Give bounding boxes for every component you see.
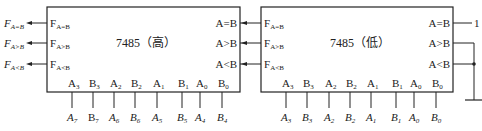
svg-text:B3: B3: [303, 77, 314, 91]
pin: B1B5: [177, 77, 189, 125]
svg-text:B2: B2: [345, 111, 356, 125]
low-data-pins: A3A3 B3B3 A2A2 B2B2 A1A1 B1B1 A0A0 B0B0: [280, 77, 443, 125]
svg-text:B4: B4: [217, 111, 228, 125]
high-cascade-gt: A>B: [216, 37, 237, 49]
svg-text:B1: B1: [392, 77, 403, 91]
high-cascade-eq: A=B: [216, 17, 237, 29]
svg-text:A5: A5: [151, 111, 163, 125]
svg-text:B1: B1: [178, 77, 189, 91]
pin: B0B0: [431, 77, 443, 125]
pin: B3B3: [302, 77, 314, 125]
svg-text:B5: B5: [177, 111, 188, 125]
svg-text:B3: B3: [89, 77, 100, 91]
svg-text:B0: B0: [218, 77, 229, 91]
svg-text:A2: A2: [323, 111, 335, 125]
svg-text:A1: A1: [153, 77, 165, 91]
junction-dot-icon: [472, 62, 476, 66]
low-pin-f-lt: FA<B: [264, 58, 284, 72]
ground-wiring: [453, 43, 482, 100]
svg-text:B6: B6: [130, 111, 141, 125]
svg-text:B2: B2: [346, 77, 357, 91]
svg-text:A1: A1: [367, 77, 379, 91]
high-cascade-lt: A<B: [216, 58, 237, 70]
svg-text:B0: B0: [432, 77, 443, 91]
pin: A0A0: [408, 77, 422, 125]
svg-text:A3: A3: [280, 111, 292, 125]
pin: A3A7: [66, 77, 80, 125]
high-pin-f-eq: FA=B: [50, 17, 70, 31]
low-cascade-lt: A<B: [429, 58, 450, 70]
pin: B0B4: [217, 77, 229, 125]
pin: B1B1: [391, 77, 403, 125]
high-output-a-eq-b: FA=B: [3, 17, 47, 31]
link-lt: [240, 62, 261, 66]
svg-text:B2: B2: [131, 77, 142, 91]
high-output-a-lt-b: FA<B: [3, 58, 47, 72]
low-pin-f-eq: FA=B: [264, 17, 284, 31]
svg-text:A3: A3: [68, 77, 80, 91]
arrow-left-icon: [26, 62, 32, 66]
high-pin-f-gt: FA>B: [50, 37, 70, 51]
link-gt: [240, 41, 261, 45]
svg-text:FA>B: FA>B: [3, 37, 25, 51]
chip-low-title: 7485（低）: [330, 36, 390, 50]
tie-high-wire: 1: [453, 17, 480, 29]
svg-text:A2: A2: [110, 77, 122, 91]
pin: A0A4: [194, 77, 208, 125]
pin: B2B6: [130, 77, 142, 125]
svg-text:A7: A7: [66, 111, 78, 125]
svg-text:A0: A0: [196, 77, 208, 91]
svg-text:A6: A6: [108, 111, 120, 125]
arrow-left-icon: [241, 41, 247, 45]
high-data-pins: A3A7 B3B7 A2A6 B2B6 A1A5 B1B5 A0A4 B0B4: [66, 77, 229, 125]
svg-text:B0: B0: [431, 111, 442, 125]
svg-text:B3: B3: [302, 111, 313, 125]
svg-text:A3: A3: [282, 77, 294, 91]
low-cascade-gt: A>B: [429, 37, 450, 49]
svg-text:A1: A1: [365, 111, 376, 125]
pin: A1A1: [365, 77, 379, 125]
arrow-left-icon: [241, 62, 247, 66]
logic-one-label: 1: [474, 17, 480, 29]
pin: B3B7: [88, 77, 100, 125]
low-pin-f-gt: FA>B: [264, 37, 284, 51]
arrow-left-icon: [26, 21, 32, 25]
pin: A3A3: [280, 77, 294, 125]
cascade-comparator-diagram: 7485（高） 7485（低） FA=B FA>B FA<B FA=B FA>B…: [0, 0, 482, 131]
pin: B2B2: [345, 77, 357, 125]
link-eq: [240, 21, 261, 25]
svg-text:A0: A0: [408, 111, 420, 125]
arrow-left-icon: [241, 21, 247, 25]
svg-text:B1: B1: [391, 111, 401, 125]
pin: A2A2: [323, 77, 337, 125]
svg-text:A4: A4: [194, 111, 206, 125]
chip-high-title: 7485（高）: [116, 35, 176, 50]
svg-text:FA<B: FA<B: [3, 58, 25, 72]
high-output-a-gt-b: FA>B: [3, 37, 47, 51]
pin: A1A5: [151, 77, 165, 125]
high-pin-f-lt: FA<B: [50, 58, 70, 72]
svg-text:A2: A2: [325, 77, 337, 91]
arrow-left-icon: [26, 41, 32, 45]
svg-text:B7: B7: [88, 111, 99, 125]
svg-text:FA=B: FA=B: [3, 17, 25, 31]
low-cascade-eq: A=B: [429, 17, 450, 29]
pin: A2A6: [108, 77, 122, 125]
svg-text:A0: A0: [410, 77, 422, 91]
